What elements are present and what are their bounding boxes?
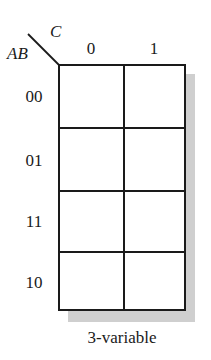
cell-01-1 [125,129,184,190]
cell-11-0 [60,192,123,251]
row-label-10: 10 [14,274,54,291]
cell-10-1 [125,253,184,309]
grid-shadow-bottom [68,311,195,322]
row-variable-label: AB [7,45,28,62]
kmap-caption: 3-variable [58,329,186,346]
column-label-1: 1 [123,40,185,57]
cell-00-1 [125,66,184,127]
row-label-11: 11 [14,213,54,230]
row-label-01: 01 [14,152,54,169]
column-variable-label: C [50,23,61,40]
column-label-0: 0 [60,40,122,57]
cell-10-0 [60,253,123,309]
cell-00-0 [60,66,123,127]
cell-01-0 [60,129,123,190]
grid-shadow-right [186,74,195,322]
kmap-grid [58,64,186,311]
cell-11-1 [125,192,184,251]
row-label-00: 00 [14,88,54,105]
